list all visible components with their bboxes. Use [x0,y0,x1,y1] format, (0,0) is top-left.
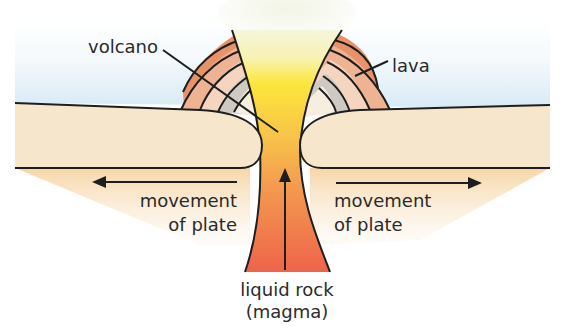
right-plate [300,105,550,168]
label-movement-left-1: movement [140,190,237,211]
label-lava: lava [392,55,430,76]
label-movement-right-1: movement [334,190,431,211]
label-magma-1: liquid rock [240,279,334,300]
label-movement-right-2: of plate [334,214,403,235]
label-movement-left-2: of plate [168,214,237,235]
label-magma-2: (magma) [246,301,329,322]
volcano-diagram: volcano lava movement of plate movement … [0,0,562,328]
label-volcano: volcano [88,36,158,57]
